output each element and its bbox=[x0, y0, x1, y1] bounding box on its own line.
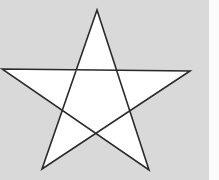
diagram-canvas bbox=[0, 0, 209, 180]
right-margin-strip bbox=[209, 0, 219, 180]
star-diagram bbox=[0, 0, 219, 180]
